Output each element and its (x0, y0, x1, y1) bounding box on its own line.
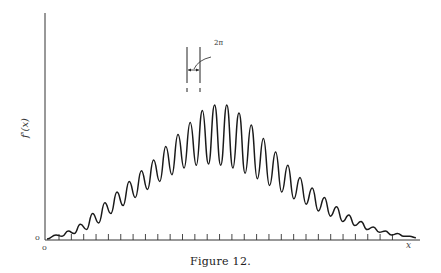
y-axis-label: f'(x) (19, 113, 39, 143)
origin-label-y: o (35, 233, 40, 242)
x-axis-ticks (59, 234, 392, 240)
figure-caption: Figure 12. (0, 255, 441, 268)
two-pi-annotation: 2π (214, 39, 223, 47)
oscillating-curve (47, 105, 416, 239)
x-axis-label: x (406, 240, 411, 250)
origin-label-x: o (42, 243, 47, 252)
two-pi-marker (187, 47, 211, 92)
